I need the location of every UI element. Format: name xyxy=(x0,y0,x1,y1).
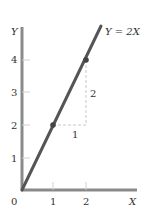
y-tick-label-3: 3 xyxy=(11,87,17,98)
x-tick-label-1: 1 xyxy=(50,196,56,207)
y-axis-label: Y xyxy=(11,26,19,37)
line-y-equals-2x xyxy=(22,26,101,190)
y-tick-label-4: 4 xyxy=(11,54,17,65)
x-tick-label-2: 2 xyxy=(83,196,89,207)
y-tick-label-2: 2 xyxy=(11,120,17,131)
x-axis-label: X xyxy=(128,196,137,207)
origin-label: 0 xyxy=(11,196,17,207)
rise-label: 2 xyxy=(90,88,96,99)
chart: Y 4 3 2 1 0 1 2 X Y = 2X 1 2 xyxy=(0,0,149,219)
run-label: 1 xyxy=(72,129,78,140)
point-2-4 xyxy=(83,57,89,63)
equation-label: Y = 2X xyxy=(105,26,141,37)
y-tick-label-1: 1 xyxy=(11,153,17,164)
point-1-2 xyxy=(50,122,56,128)
